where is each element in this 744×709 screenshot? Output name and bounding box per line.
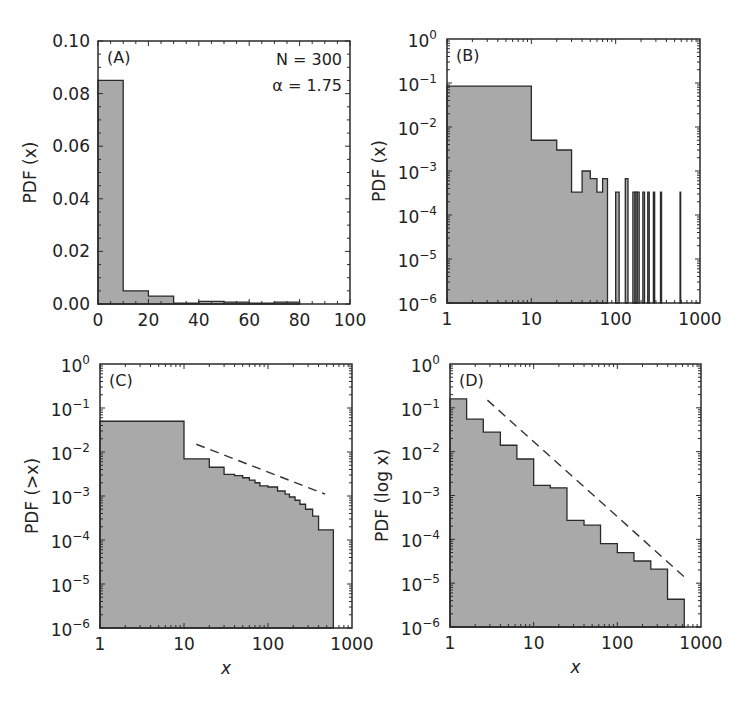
- y-tick-label: 0.00: [52, 294, 90, 314]
- panel-label: (A): [107, 48, 130, 67]
- y-tick-label: 100: [61, 353, 90, 376]
- y-tick-label: 0.02: [52, 241, 90, 261]
- y-tick-label: 100: [408, 28, 437, 51]
- panel-label: (D): [459, 371, 484, 390]
- y-tick-label: 10−4: [51, 529, 90, 552]
- x-axis-label: x: [220, 658, 232, 678]
- y-tick-label: 10−6: [401, 616, 440, 639]
- y-axis-label: PDF (x): [369, 140, 389, 202]
- x-tick-label: 1: [442, 309, 453, 329]
- x-tick-label: 40: [188, 310, 210, 330]
- x-tick-label: 100: [599, 309, 631, 329]
- x-tick-label: 1000: [330, 634, 373, 654]
- y-tick-label: 10−2: [51, 441, 90, 464]
- y-tick-label: 10−2: [401, 441, 440, 464]
- y-tick-label: 10−1: [51, 397, 90, 420]
- panel-label: (B): [456, 46, 479, 65]
- panel-c: 110100100010−610−510−410−310−210−1100PDF…: [22, 353, 374, 678]
- histogram-bars: [98, 80, 300, 304]
- x-tick-label: 1000: [678, 309, 721, 329]
- panel-d: 110100100010−610−510−410−310−210−1100PDF…: [372, 353, 723, 677]
- x-tick-label: 80: [289, 310, 311, 330]
- y-tick-label: 0.06: [52, 136, 90, 156]
- y-tick-label: 10−4: [401, 528, 440, 551]
- panel-b: 110100100010−610−510−410−310−210−1100PDF…: [369, 28, 722, 329]
- x-tick-label: 60: [238, 310, 260, 330]
- histogram-bars: [447, 86, 681, 303]
- x-tick-label: 20: [138, 310, 160, 330]
- x-tick-label: 10: [523, 633, 545, 653]
- y-tick-label: 0.10: [52, 31, 90, 51]
- y-tick-label: 10−5: [401, 572, 440, 595]
- y-tick-label: 100: [411, 353, 440, 376]
- x-tick-label: 0: [93, 310, 104, 330]
- y-axis-label: PDF (>x): [22, 458, 42, 534]
- x-tick-label: 1000: [679, 633, 722, 653]
- figure: 0204060801000.000.020.040.060.080.10PDF …: [0, 0, 744, 709]
- y-axis-label: PDF (log x): [372, 449, 392, 542]
- x-tick-label: 1: [95, 634, 106, 654]
- y-tick-label: 10−1: [398, 72, 437, 95]
- y-tick-label: 10−3: [401, 485, 440, 508]
- y-tick-label: 0.08: [52, 84, 90, 104]
- y-axis-label: PDF (x): [20, 142, 40, 204]
- x-tick-label: 100: [601, 633, 633, 653]
- x-tick-label: 10: [521, 309, 543, 329]
- x-tick-label: 10: [173, 634, 195, 654]
- y-tick-label: 10−6: [398, 292, 437, 315]
- panel-a: 0204060801000.000.020.040.060.080.10PDF …: [20, 31, 366, 330]
- alpha-annotation: α = 1.75: [272, 76, 342, 95]
- y-tick-label: 10−5: [398, 248, 437, 271]
- y-tick-label: 10−3: [398, 160, 437, 183]
- x-axis-label: x: [569, 657, 581, 677]
- y-tick-label: 10−6: [51, 617, 90, 640]
- y-tick-label: 0.04: [52, 189, 90, 209]
- x-tick-label: 100: [252, 634, 284, 654]
- panel-label: (C): [109, 371, 133, 390]
- y-tick-label: 10−5: [51, 573, 90, 596]
- sample-size-annotation: N = 300: [276, 50, 342, 69]
- x-tick-label: 100: [334, 310, 366, 330]
- log-binned-histogram: [450, 399, 684, 627]
- y-tick-label: 10−1: [401, 397, 440, 420]
- x-tick-label: 1: [445, 633, 456, 653]
- y-tick-label: 10−2: [398, 116, 437, 139]
- y-tick-label: 10−3: [51, 485, 90, 508]
- y-tick-label: 10−4: [398, 204, 437, 227]
